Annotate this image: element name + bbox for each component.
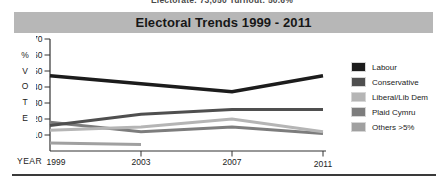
- legend-label: Liberal/Lib Dem: [372, 93, 428, 102]
- legend-item: Conservative: [352, 78, 428, 86]
- y-tick-label: 50: [36, 66, 43, 76]
- y-tick-label: 40: [36, 82, 43, 92]
- series-line-labour: [50, 76, 323, 92]
- electorate-turnout-text: Electorate: 73,050 Turnout: 50.6%: [0, 0, 444, 5]
- y-axis-label-vote: %VOTE: [18, 48, 32, 126]
- series-line-others-5-: [50, 143, 141, 145]
- chart-title: Electoral Trends 1999 - 2011: [135, 15, 311, 30]
- y-axis-letter: O: [22, 79, 29, 95]
- legend-item: Plaid Cymru: [352, 108, 428, 116]
- chart-legend: LabourConservativeLiberal/Lib DemPlaid C…: [352, 63, 428, 138]
- legend-swatch: [352, 108, 365, 116]
- legend-label: Plaid Cymru: [372, 108, 416, 117]
- x-tick-label: 2007: [223, 157, 242, 167]
- y-axis-letter: V: [22, 64, 28, 80]
- legend-swatch: [352, 93, 365, 101]
- legend-item: Liberal/Lib Dem: [352, 93, 428, 101]
- y-tick-label: 60: [36, 50, 43, 60]
- legend-label: Conservative: [372, 78, 419, 87]
- bottom-divider: [12, 174, 436, 176]
- x-tick-label: 2011: [314, 159, 333, 169]
- y-tick-label: 70: [36, 36, 43, 44]
- x-axis-label: YEAR: [17, 156, 42, 166]
- line-chart: 706050403020101999200320072011: [36, 36, 348, 172]
- legend-label: Others >5%: [372, 123, 414, 132]
- y-tick-label: 10: [36, 130, 43, 140]
- legend-swatch: [352, 123, 365, 131]
- y-axis-letter: %: [21, 48, 29, 64]
- legend-item: Others >5%: [352, 123, 428, 131]
- legend-swatch: [352, 63, 365, 71]
- y-axis-letter: E: [22, 111, 28, 127]
- legend-label: Labour: [372, 63, 397, 72]
- chart-title-bar: Electoral Trends 1999 - 2011: [14, 12, 433, 33]
- legend-item: Labour: [352, 63, 428, 71]
- y-axis-letter: T: [22, 95, 27, 111]
- y-tick-label: 30: [36, 98, 43, 108]
- y-tick-label: 20: [36, 114, 43, 124]
- x-tick-label: 2003: [132, 157, 151, 167]
- x-tick-label: 1999: [47, 157, 66, 167]
- legend-swatch: [352, 78, 365, 86]
